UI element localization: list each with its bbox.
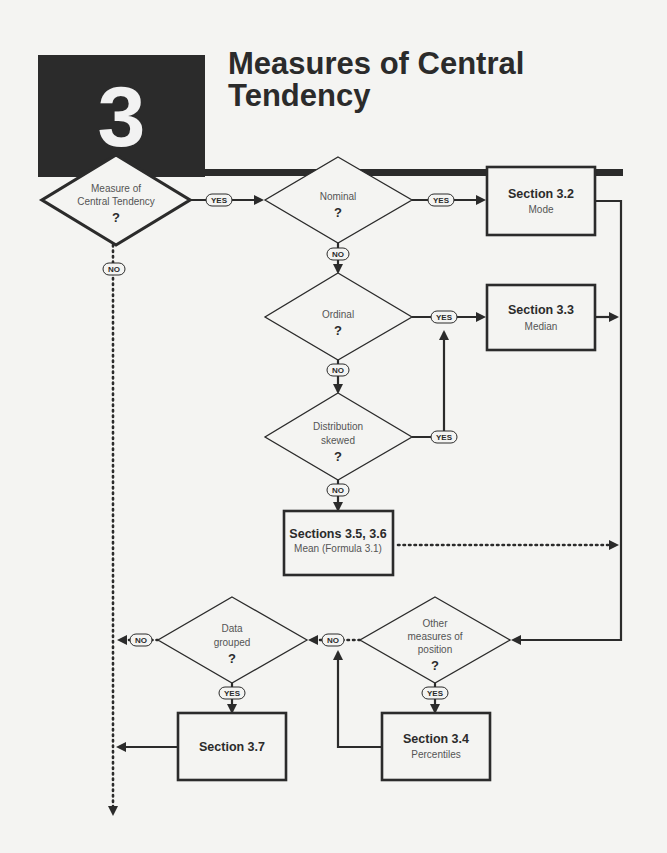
yes-label: YES — [436, 433, 453, 442]
s32-sub: Mode — [528, 204, 553, 215]
grouped-q: ? — [228, 651, 236, 666]
skewed-line1: Distribution — [313, 421, 363, 432]
s356-title: Sections 3.5, 3.6 — [289, 527, 386, 541]
yes-label: YES — [211, 196, 228, 205]
nominal-q: ? — [334, 205, 342, 220]
grouped-line1: Data — [221, 623, 243, 634]
connectors — [118, 200, 621, 747]
central-q: ? — [112, 210, 120, 225]
other-line2: measures of — [407, 631, 462, 642]
s37-title: Section 3.7 — [199, 740, 265, 754]
skewed-line2: skewed — [321, 435, 355, 446]
yes-label: YES — [436, 313, 453, 322]
other-q: ? — [431, 658, 439, 673]
box-section-3-2 — [487, 167, 595, 235]
s34-title: Section 3.4 — [403, 732, 469, 746]
nominal-label: Nominal — [320, 191, 357, 202]
grouped-line2: grouped — [214, 637, 251, 648]
s33-title: Section 3.3 — [508, 303, 574, 317]
flowchart: Measure of Central Tendency ? Nominal ? … — [0, 0, 667, 853]
yes-label: YES — [224, 689, 241, 698]
no-label: NO — [332, 250, 344, 259]
no-label: NO — [135, 636, 147, 645]
s34-sub: Percentiles — [411, 749, 460, 760]
central-line2: Central Tendency — [77, 196, 155, 207]
central-line1: Measure of — [91, 183, 141, 194]
s32-title: Section 3.2 — [508, 187, 574, 201]
box-section-3-4 — [382, 713, 490, 780]
s33-sub: Median — [525, 321, 558, 332]
skewed-q: ? — [334, 449, 342, 464]
s356-sub: Mean (Formula 3.1) — [294, 543, 382, 554]
no-label: NO — [332, 486, 344, 495]
box-section-3-3 — [487, 285, 595, 350]
other-line1: Other — [422, 618, 448, 629]
ordinal-q: ? — [334, 323, 342, 338]
other-line3: position — [418, 644, 452, 655]
no-label: NO — [332, 366, 344, 375]
yes-label: YES — [427, 689, 444, 698]
yes-label: YES — [433, 196, 450, 205]
no-label: NO — [108, 265, 120, 274]
no-label: NO — [327, 636, 339, 645]
ordinal-label: Ordinal — [322, 309, 354, 320]
